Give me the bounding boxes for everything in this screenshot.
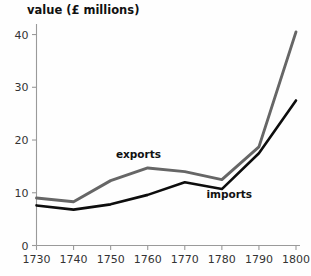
x-tick-label: 1760 [134, 253, 162, 266]
y-tick-label: 0 [22, 240, 29, 253]
series-line-imports [37, 100, 297, 209]
x-tick-label: 1780 [208, 253, 236, 266]
x-tick-label: 1750 [97, 253, 125, 266]
x-axis: 17301740175017601770178017901800 [23, 246, 311, 266]
y-tick-label: 40 [15, 29, 29, 42]
series-annotations: exportsimports [116, 148, 252, 200]
chart-container: value (£ millions) 010203040 17301740175… [0, 0, 310, 276]
series-label-exports: exports [116, 148, 161, 160]
y-axis: 010203040 [15, 24, 37, 253]
series-label-imports: imports [206, 188, 252, 200]
chart-title-group: value (£ millions) [27, 3, 139, 17]
chart-title: value (£ millions) [27, 3, 139, 17]
x-tick-label: 1740 [60, 253, 88, 266]
y-tick-label: 30 [15, 81, 29, 94]
data-series-group [37, 32, 297, 210]
y-tick-label: 10 [15, 187, 29, 200]
x-tick-label: 1770 [171, 253, 199, 266]
x-tick-label: 1800 [282, 253, 310, 266]
x-tick-label: 1730 [23, 253, 51, 266]
y-tick-label: 20 [15, 134, 29, 147]
line-chart: value (£ millions) 010203040 17301740175… [0, 0, 310, 276]
x-tick-label: 1790 [245, 253, 273, 266]
series-line-exports [37, 32, 297, 202]
